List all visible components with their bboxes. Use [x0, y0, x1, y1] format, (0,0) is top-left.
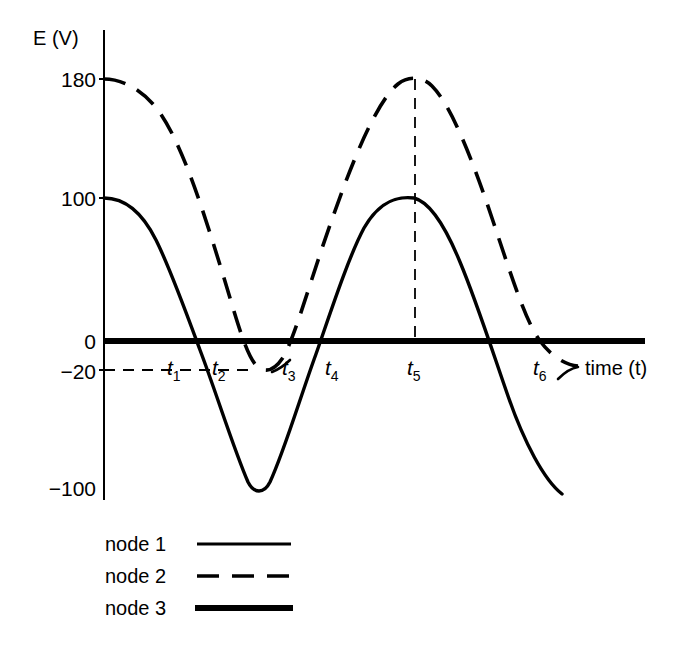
svg-text:t4: t4 — [325, 356, 339, 384]
x-axis-title-text: time (t) — [585, 357, 647, 379]
y-tick-label-100: 100 — [61, 187, 96, 210]
y-tick-label-0: 0 — [84, 330, 96, 353]
svg-text:t2: t2 — [212, 356, 226, 384]
x-tick-t1-sub: 1 — [173, 368, 181, 384]
x-tick-t6-sub: 6 — [539, 368, 547, 384]
legend-item-node-2: node 2 — [105, 565, 291, 587]
curve-node1 — [104, 198, 562, 494]
svg-text:t6: t6 — [533, 356, 547, 384]
legend: node 1 node 2 node 3 — [105, 533, 293, 619]
x-tick-t3-sub: 3 — [288, 368, 296, 384]
svg-text:t5: t5 — [407, 356, 421, 384]
chart-svg: E (V) 180 100 0 −20 −100 t1 t2 — [0, 0, 677, 650]
y-tick-label-minus100: −100 — [49, 477, 96, 500]
curve-node2 — [104, 78, 578, 370]
legend-label-node-2: node 2 — [105, 565, 166, 587]
x-tick-label-t1: t1 — [167, 356, 181, 384]
y-tick-label-minus20: −20 — [60, 360, 96, 383]
legend-label-node-1: node 1 — [105, 533, 166, 555]
x-axis-title: time (t) — [585, 357, 647, 379]
x-tick-label-t5: t5 — [407, 356, 421, 384]
x-tick-t5-sub: 5 — [413, 368, 421, 384]
chart-figure: E (V) 180 100 0 −20 −100 t1 t2 — [0, 0, 677, 650]
x-tick-t2-sub: 2 — [218, 368, 226, 384]
x-tick-label-t4: t4 — [325, 356, 339, 384]
svg-text:t1: t1 — [167, 356, 181, 384]
x-tick-label-t6: t6 — [533, 356, 547, 384]
legend-item-node-1: node 1 — [105, 533, 291, 555]
x-tick-label-t2: t2 — [212, 356, 226, 384]
y-tick-label-180: 180 — [61, 68, 96, 91]
x-tick-t4-sub: 4 — [331, 368, 339, 384]
y-axis-title: E (V) — [33, 27, 79, 49]
legend-item-node-3: node 3 — [105, 597, 293, 619]
legend-label-node-3: node 3 — [105, 597, 166, 619]
t6-leader-line — [558, 367, 578, 379]
